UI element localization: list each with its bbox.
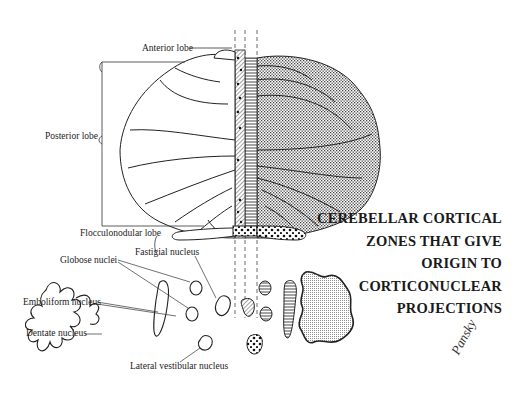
title-line-5: PROJECTIONS xyxy=(317,297,502,320)
intermediate-zone xyxy=(245,58,257,238)
cerebellum-diagram xyxy=(0,0,520,406)
label-globose-nuclei: Globose nuclei xyxy=(60,255,117,265)
left-hemisphere xyxy=(120,50,235,238)
label-emboliform-nucleus: Emboliform nucleus xyxy=(23,297,101,307)
vermis-zone xyxy=(235,50,245,238)
label-fastigial-nucleus: Fastigial nucleus xyxy=(135,247,199,257)
label-lateral-vestibular-nucleus: Lateral vestibular nucleus xyxy=(130,361,228,371)
title-line-1: CEREBELLAR CORTICAL xyxy=(317,207,502,230)
title-line-3: ORIGIN TO xyxy=(317,252,502,275)
diagram-stage: Anterior lobe Posterior lobe Flocculonod… xyxy=(0,0,520,406)
label-posterior-lobe: Posterior lobe xyxy=(45,131,98,141)
label-flocculonodular-lobe: Flocculonodular lobe xyxy=(80,228,161,238)
label-anterior-lobe: Anterior lobe xyxy=(142,43,193,53)
title-line-2: ZONES THAT GIVE xyxy=(317,230,502,253)
deep-nuclei xyxy=(25,281,230,351)
title-line-4: CORTICONUCLEAR xyxy=(317,275,502,298)
label-dentate-nucleus: Dentate nucleus xyxy=(26,328,87,338)
figure-title: CEREBELLAR CORTICAL ZONES THAT GIVE ORIG… xyxy=(317,207,502,320)
